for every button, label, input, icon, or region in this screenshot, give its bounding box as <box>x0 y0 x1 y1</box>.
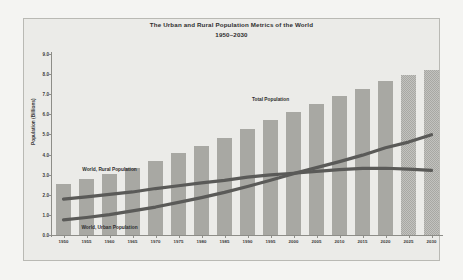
chart-annotation: Total Population <box>252 97 289 102</box>
x-tick-mark <box>340 235 341 238</box>
x-tick-mark <box>363 235 364 238</box>
chart-figure: The Urban and Rural Population Metrics o… <box>0 0 463 280</box>
x-tick-mark <box>225 235 226 238</box>
x-tick-label: 2005 <box>312 239 322 244</box>
y-axis-label: Population (Billions) <box>31 98 36 145</box>
line-series-group <box>52 54 443 235</box>
x-tick-mark <box>409 235 410 238</box>
x-tick-label: 2030 <box>427 239 437 244</box>
x-tick-label: 1985 <box>220 239 230 244</box>
x-tick-label: 1995 <box>266 239 276 244</box>
x-tick-mark <box>179 235 180 238</box>
x-tick-mark <box>248 235 249 238</box>
x-tick-label: 1960 <box>105 239 115 244</box>
x-tick-mark <box>294 235 295 238</box>
x-tick-mark <box>64 235 65 238</box>
y-tick-mark <box>49 235 52 236</box>
chart-annotation: World, Rural Population <box>82 166 137 171</box>
x-tick-label: 1990 <box>243 239 253 244</box>
x-tick-mark <box>156 235 157 238</box>
x-tick-label: 1950 <box>59 239 69 244</box>
x-tick-mark <box>432 235 433 238</box>
x-tick-label: 1965 <box>128 239 138 244</box>
x-tick-label: 2000 <box>289 239 299 244</box>
x-tick-label: 1955 <box>82 239 92 244</box>
x-tick-mark <box>271 235 272 238</box>
x-tick-label: 2020 <box>381 239 391 244</box>
x-tick-label: 1970 <box>151 239 161 244</box>
rural-population-line <box>64 168 432 199</box>
plot-area: 0.01.02.03.04.05.06.07.08.09.0 195019551… <box>52 54 443 235</box>
x-tick-label: 1980 <box>197 239 207 244</box>
x-tick-label: 2025 <box>404 239 414 244</box>
x-tick-mark <box>87 235 88 238</box>
x-tick-mark <box>386 235 387 238</box>
x-tick-mark <box>133 235 134 238</box>
x-tick-label: 1975 <box>174 239 184 244</box>
chart-annotation: World, Urban Population <box>81 224 137 229</box>
x-tick-mark <box>317 235 318 238</box>
x-tick-label: 2010 <box>335 239 345 244</box>
x-tick-mark <box>202 235 203 238</box>
x-tick-mark <box>110 235 111 238</box>
x-tick-label: 2015 <box>358 239 368 244</box>
